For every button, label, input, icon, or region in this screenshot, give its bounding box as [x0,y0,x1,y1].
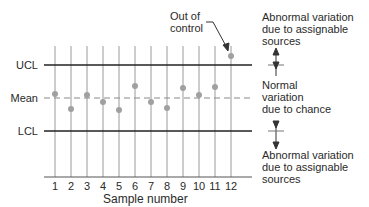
x-tick-3: 3 [79,180,95,192]
x-tick-1: 1 [47,180,63,192]
out-of-control-arrow [206,22,229,51]
x-tick-11: 11 [207,180,223,192]
x-tick-5: 5 [111,180,127,192]
abnormal-top-line1: Abnormal variation [262,11,354,23]
x-tick-6: 6 [127,180,143,192]
x-tick-4: 4 [95,180,111,192]
normal-line3: due to chance [262,103,331,115]
x-tick-7: 7 [143,180,159,192]
abnormal-top-line2: due to assignable [262,23,348,35]
abnormal-top-line3: sources [262,35,301,47]
abnormal-bottom-line3: sources [262,173,301,185]
mean-label: Mean [0,92,38,104]
normal-line2: variation [262,91,304,103]
x-tick-10: 10 [191,180,207,192]
data-points [52,53,234,113]
out-of-control-label-line2: control [170,22,203,34]
ucl-label: UCL [0,59,38,71]
x-tick-9: 9 [175,180,191,192]
x-tick-8: 8 [159,180,175,192]
lcl-label: LCL [0,125,38,137]
abnormal-bottom-line2: due to assignable [262,161,348,173]
x-tick-2: 2 [63,180,79,192]
x-axis-label: Sample number [103,193,188,205]
x-tick-12: 12 [223,180,239,192]
abnormal-bottom-line1: Abnormal variation [262,149,354,161]
normal-line1: Normal [262,79,297,91]
out-of-control-label-line1: Out of [170,10,200,22]
